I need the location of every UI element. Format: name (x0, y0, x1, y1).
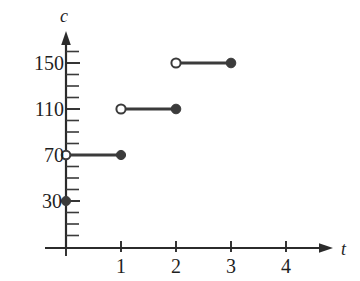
y-tick-label-70: 70 (44, 144, 64, 166)
x-tick-label-3: 3 (226, 255, 236, 277)
y-axis-name-label: c (60, 6, 68, 26)
x-axis-name-label: t (341, 239, 347, 259)
point-closed-0-30 (61, 196, 70, 205)
x-tick-label-1: 1 (116, 255, 126, 277)
y-axis-arrowhead (61, 31, 71, 45)
x-axis-tick-labels: 1 2 3 4 (116, 255, 291, 277)
point-closed-1-70 (116, 150, 125, 159)
point-closed-2-110 (171, 104, 181, 114)
y-axis-tick-labels: 150 110 70 30 (34, 52, 64, 212)
x-tick-label-4: 4 (281, 255, 291, 277)
step-segments (66, 63, 231, 155)
axis-name-labels: c t (60, 6, 347, 259)
y-axis-minor-ticks (66, 52, 79, 236)
point-open-1-110 (116, 104, 125, 113)
x-axis-arrowhead (319, 243, 333, 253)
point-open-2-150 (171, 58, 180, 67)
point-closed-3-150 (226, 58, 236, 68)
x-tick-label-2: 2 (171, 255, 181, 277)
y-tick-label-150: 150 (34, 52, 64, 74)
y-tick-label-110: 110 (35, 98, 64, 120)
endpoint-markers (61, 58, 235, 205)
y-tick-label-30: 30 (42, 190, 62, 212)
step-function-chart: 150 110 70 30 1 2 3 4 c t (0, 0, 360, 281)
chart-canvas: 150 110 70 30 1 2 3 4 c t (0, 0, 360, 281)
